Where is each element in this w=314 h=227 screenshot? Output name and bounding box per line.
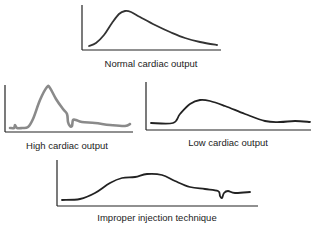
curve-high (10, 86, 130, 129)
chart-improper (57, 160, 258, 206)
curve-improper (62, 174, 250, 200)
caption-normal: Normal cardiac output (105, 58, 198, 69)
chart-high (5, 85, 133, 132)
curve-low (151, 100, 310, 124)
curve-normal (89, 11, 217, 46)
caption-low: Low cardiac output (188, 137, 268, 148)
cardiac-output-curves-diagram (0, 0, 314, 227)
chart-low (146, 82, 311, 130)
caption-high: High cardiac output (26, 140, 108, 151)
caption-improper: Improper injection technique (97, 212, 216, 223)
chart-normal (82, 5, 221, 50)
